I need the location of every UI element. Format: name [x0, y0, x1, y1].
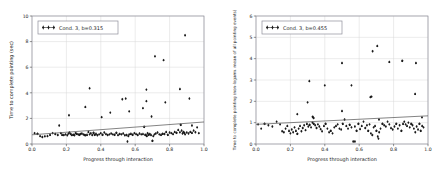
left-y-axis-title: Time to complete pointing (sec): [8, 41, 15, 120]
left-scatter-plot: 0.00.20.40.60.81.0 0246810 Progress thro…: [0, 0, 223, 184]
scatter-point: [347, 127, 349, 130]
scatter-point: [348, 123, 350, 126]
scatter-point: [295, 129, 297, 132]
scatter-point: [172, 133, 174, 136]
scatter-point: [321, 130, 323, 133]
scatter-point: [154, 55, 156, 58]
scatter-point: [170, 132, 172, 135]
right-y-tick-labels: 0123456: [249, 14, 255, 147]
scatter-point: [126, 134, 128, 137]
scatter-point: [179, 131, 181, 134]
scatter-point: [188, 132, 190, 135]
scatter-point: [58, 124, 60, 127]
scatter-point: [267, 124, 269, 127]
scatter-point: [271, 125, 273, 128]
scatter-point: [400, 129, 402, 132]
scatter-point: [360, 124, 362, 127]
scatter-point: [338, 127, 340, 130]
y-tick-label: 1: [249, 120, 252, 125]
scatter-point: [124, 134, 126, 137]
scatter-point: [355, 129, 357, 132]
y-tick-label: 0: [26, 142, 29, 147]
scatter-point: [323, 84, 325, 87]
scatter-point: [286, 124, 288, 127]
y-tick-label: 6: [26, 65, 29, 70]
scatter-point: [343, 118, 345, 121]
scatter-point: [288, 129, 290, 132]
scatter-point: [145, 88, 147, 91]
scatter-point: [317, 123, 319, 126]
scatter-point: [169, 131, 171, 134]
scatter-point: [152, 139, 154, 142]
left-plot-frame: [32, 16, 204, 144]
right-legend: Cond. 3, b=0.455: [262, 21, 342, 34]
scatter-point: [341, 109, 343, 112]
scatter-point: [100, 132, 102, 135]
scatter-point: [188, 97, 190, 100]
scatter-point: [142, 133, 144, 136]
scatter-point: [110, 132, 112, 135]
scatter-point: [44, 135, 46, 138]
x-tick-label: 0.8: [166, 147, 173, 152]
scatter-point: [260, 127, 262, 130]
scatter-point: [354, 140, 356, 143]
x-tick-label: 1.0: [424, 147, 431, 152]
y-tick-label: 6: [249, 14, 252, 19]
scatter-point: [379, 127, 381, 130]
right-plot-grid: [256, 16, 428, 144]
scatter-point: [142, 107, 144, 110]
scatter-point: [319, 128, 321, 131]
right-legend-label: Cond. 3, b=0.455: [283, 25, 327, 31]
scatter-point: [39, 135, 41, 138]
scatter-point: [114, 133, 116, 136]
scatter-point: [293, 126, 295, 129]
scatter-point: [328, 131, 330, 134]
scatter-point: [191, 124, 193, 127]
y-tick-label: 2: [249, 99, 252, 104]
x-tick-label: 0.4: [97, 147, 104, 152]
scatter-point: [414, 131, 416, 134]
left-plot-grid: [32, 16, 204, 144]
scatter-point: [115, 131, 117, 134]
scatter-point: [189, 130, 191, 133]
x-tick-label: 1.0: [200, 147, 207, 152]
scatter-point: [160, 133, 162, 136]
left-regression-line: [32, 122, 204, 135]
scatter-point: [176, 131, 178, 134]
two-panel-scatter-figure: 0.00.20.40.60.81.0 0246810 Progress thro…: [0, 0, 447, 184]
scatter-point: [352, 140, 354, 143]
left-plot-points: [34, 34, 200, 143]
scatter-point: [122, 132, 124, 135]
scatter-point: [408, 126, 410, 129]
scatter-point: [371, 50, 373, 53]
y-tick-label: 2: [26, 116, 29, 121]
scatter-point: [107, 134, 109, 137]
scatter-point: [181, 129, 183, 132]
scatter-point: [151, 115, 153, 118]
right-plot-points: [257, 44, 424, 142]
scatter-point: [419, 129, 421, 132]
scatter-point: [341, 61, 343, 64]
scatter-point: [127, 140, 129, 143]
scatter-point: [364, 127, 366, 130]
scatter-point: [105, 133, 107, 136]
chart-panel-right: 0.00.20.40.60.81.0 0123456 Progress thro…: [224, 0, 447, 184]
right-scatter-plot: 0.00.20.40.60.81.0 0123456 Progress thro…: [224, 0, 447, 184]
right-y-axis-title: Time to complete pointing (non-logarm. m…: [232, 9, 237, 151]
left-legend: Cond. 3, b=0.315: [38, 21, 118, 34]
scatter-point: [415, 61, 417, 64]
scatter-point: [417, 128, 419, 131]
left-x-tick-labels: 0.00.20.40.60.81.0: [28, 144, 207, 152]
x-tick-label: 0.0: [252, 147, 259, 152]
scatter-point: [34, 132, 36, 135]
scatter-point: [195, 131, 197, 134]
scatter-point: [318, 125, 320, 128]
scatter-point: [186, 131, 188, 134]
x-tick-label: 0.2: [63, 147, 70, 152]
scatter-point: [137, 134, 139, 137]
x-tick-label: 0.8: [389, 147, 396, 152]
scatter-point: [177, 128, 179, 131]
scatter-point: [371, 134, 373, 137]
scatter-point: [335, 124, 337, 127]
scatter-point: [414, 92, 416, 95]
